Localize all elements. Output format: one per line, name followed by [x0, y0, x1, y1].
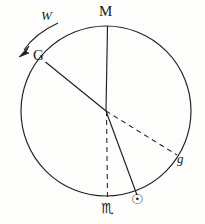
rotation-arrow-head — [19, 46, 29, 57]
radius-to-g — [106, 111, 177, 155]
radius-to-sun — [106, 111, 137, 195]
point-label-M: M — [99, 4, 112, 19]
diagram-canvas — [0, 0, 205, 224]
sun-symbol: ☉ — [131, 192, 144, 206]
scorpio-symbol: ♏ — [101, 201, 114, 215]
radius-to-G — [46, 62, 107, 111]
point-label-G: G — [33, 48, 44, 63]
astronomical-diagram: M G W g ♏ ☉ — [0, 0, 205, 224]
point-label-g: g — [177, 152, 184, 165]
rotation-arrow-arc — [24, 23, 58, 50]
radius-to-M — [106, 26, 108, 111]
rotation-label-W: W — [41, 9, 52, 22]
radius-to-scorpio — [107, 111, 108, 197]
